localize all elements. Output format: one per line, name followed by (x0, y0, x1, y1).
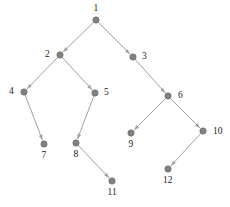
graph-edge (171, 134, 200, 166)
graph-node[interactable] (200, 128, 206, 134)
graph-node[interactable] (165, 166, 171, 172)
graph-edge (99, 23, 130, 54)
graph-node[interactable] (73, 140, 79, 146)
graph-node-label: 6 (178, 91, 183, 101)
graph-node-label: 2 (45, 50, 50, 60)
graph-edge (79, 146, 109, 178)
graph-edge (27, 58, 57, 89)
edges-layer (25, 23, 200, 178)
graph-node[interactable] (130, 54, 136, 60)
graph-node-label: 12 (163, 176, 173, 186)
graph-edge (171, 99, 200, 128)
graph-node[interactable] (109, 178, 115, 184)
graph-node-label: 10 (213, 127, 223, 137)
nodes-layer (21, 17, 206, 184)
graph-node-label: 8 (74, 150, 79, 160)
graph-node-label: 3 (142, 52, 147, 62)
graph-edge (134, 99, 165, 130)
graph-node[interactable] (92, 90, 98, 96)
graph-edge (63, 58, 92, 90)
graph-edge (63, 23, 93, 52)
graph-node-label: 9 (129, 140, 134, 150)
graph-node-label: 5 (104, 88, 109, 98)
graph-edge (136, 60, 166, 93)
tree-graph-figure: 123456789101112 (0, 0, 230, 207)
graph-edge-arrowhead (39, 135, 43, 140)
graph-node[interactable] (165, 93, 171, 99)
graph-node-label: 1 (94, 4, 99, 14)
graph-edge (78, 97, 94, 139)
graph-node[interactable] (128, 130, 134, 136)
graph-node[interactable] (57, 52, 63, 58)
graph-node-label: 4 (9, 87, 14, 97)
graph-edge (25, 96, 42, 140)
graph-node-label: 11 (108, 188, 117, 198)
graph-canvas (0, 0, 230, 207)
graph-edge-arrowhead (78, 134, 82, 139)
graph-node[interactable] (41, 141, 47, 147)
graph-node[interactable] (93, 17, 99, 23)
graph-node[interactable] (21, 89, 27, 95)
graph-node-label: 7 (42, 151, 47, 161)
